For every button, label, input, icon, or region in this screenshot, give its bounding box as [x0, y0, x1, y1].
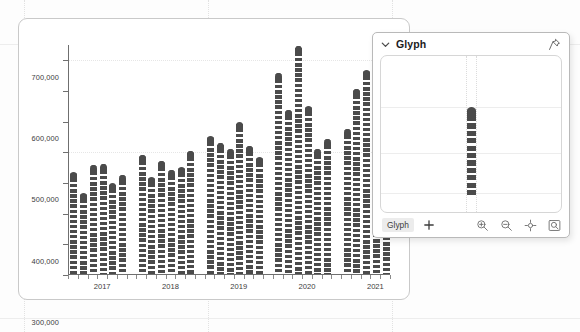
zoom-in-icon[interactable]: [476, 219, 489, 232]
x-axis-tick: [195, 275, 196, 279]
x-axis-tick: [97, 275, 98, 279]
plot-area: 0100,000200,000300,000400,000500,000600,…: [68, 45, 390, 275]
x-axis-tick: [283, 275, 284, 279]
x-axis-tick: [136, 275, 137, 279]
bar[interactable]: [148, 177, 155, 275]
x-axis-label: 2020: [299, 282, 316, 291]
pin-icon[interactable]: [548, 38, 561, 51]
x-axis-tick: [390, 275, 391, 279]
x-axis-tick: [214, 275, 215, 279]
x-axis-tick: [185, 275, 186, 279]
x-axis-tick: [127, 275, 128, 279]
x-axis-label: 2018: [162, 282, 179, 291]
bar[interactable]: [158, 161, 165, 275]
bar[interactable]: [246, 146, 253, 275]
bar[interactable]: [295, 46, 302, 275]
bar[interactable]: [187, 151, 194, 276]
bar[interactable]: [227, 149, 234, 275]
bar[interactable]: [314, 149, 321, 275]
glyph-panel-header[interactable]: Glyph: [373, 33, 569, 55]
x-axis-tick: [234, 275, 235, 279]
bar-chart-card[interactable]: 0100,000200,000300,000400,000500,000600,…: [18, 18, 410, 300]
glyph-panel-title: Glyph: [396, 38, 548, 50]
x-axis-tick: [370, 275, 371, 279]
bar[interactable]: [236, 122, 243, 275]
fit-to-view-icon[interactable]: [524, 219, 537, 232]
bar[interactable]: [275, 73, 282, 275]
bar[interactable]: [109, 183, 116, 275]
bar[interactable]: [344, 129, 351, 275]
bar[interactable]: [80, 193, 87, 275]
glyph-panel-footer[interactable]: Glyph: [373, 213, 569, 237]
bar[interactable]: [353, 89, 360, 275]
x-axis-tick: [341, 275, 342, 279]
x-axis-tick: [244, 275, 245, 279]
y-axis-label: 500,000: [32, 195, 59, 204]
x-axis-label: 2017: [94, 282, 111, 291]
x-axis-tick: [88, 275, 89, 279]
x-axis-tick: [78, 275, 79, 279]
x-axis-tick: [156, 275, 157, 279]
bar[interactable]: [207, 136, 214, 275]
plus-icon[interactable]: [423, 219, 435, 231]
x-axis-tick: [322, 275, 323, 279]
bar[interactable]: [256, 157, 263, 275]
chevron-down-icon[interactable]: [380, 39, 391, 50]
bar[interactable]: [285, 110, 292, 275]
x-axis-tick: [292, 275, 293, 279]
x-axis-tick: [253, 275, 254, 279]
x-axis-tick: [263, 275, 264, 279]
x-axis-label: 2021: [367, 282, 384, 291]
x-axis-tick: [107, 275, 108, 279]
x-axis-tick: [361, 275, 362, 279]
x-axis-tick: [273, 275, 274, 279]
glyph-canvas[interactable]: [380, 55, 562, 213]
bar[interactable]: [168, 170, 175, 275]
x-axis-label: 2019: [230, 282, 247, 291]
bar[interactable]: [324, 139, 331, 275]
glyph-tab[interactable]: Glyph: [382, 218, 414, 232]
bar[interactable]: [119, 175, 126, 275]
glyph-bar[interactable]: [467, 107, 476, 194]
x-axis-tick: [117, 275, 118, 279]
bar[interactable]: [363, 70, 370, 275]
x-axis-tick: [146, 275, 147, 279]
bar[interactable]: [139, 155, 146, 275]
bar[interactable]: [217, 143, 224, 275]
x-axis-tick: [224, 275, 225, 279]
bar[interactable]: [305, 106, 312, 275]
y-axis-label: 400,000: [32, 256, 59, 265]
x-axis-tick: [331, 275, 332, 279]
x-axis-tick: [175, 275, 176, 279]
x-axis-tick: [166, 275, 167, 279]
x-axis-tick: [380, 275, 381, 279]
glyph-panel[interactable]: Glyph Glyph: [372, 32, 570, 238]
y-axis-label: 700,000: [32, 72, 59, 81]
bar[interactable]: [178, 167, 185, 275]
x-axis-tick: [205, 275, 206, 279]
x-axis-tick: [312, 275, 313, 279]
y-axis-label: 600,000: [32, 134, 59, 143]
glyph-canvas-guide: [476, 56, 477, 212]
bars-layer[interactable]: [68, 45, 390, 275]
bar[interactable]: [90, 165, 97, 275]
bar[interactable]: [100, 164, 107, 275]
x-axis-tick: [351, 275, 352, 279]
canvas-guide-horizontal: [0, 318, 580, 319]
zoom-to-selection-icon[interactable]: [548, 219, 561, 232]
y-axis-label: 300,000: [32, 318, 59, 327]
x-axis-tick: [68, 275, 69, 279]
bar[interactable]: [70, 172, 77, 275]
zoom-out-icon[interactable]: [500, 219, 513, 232]
x-axis-tick: [302, 275, 303, 279]
